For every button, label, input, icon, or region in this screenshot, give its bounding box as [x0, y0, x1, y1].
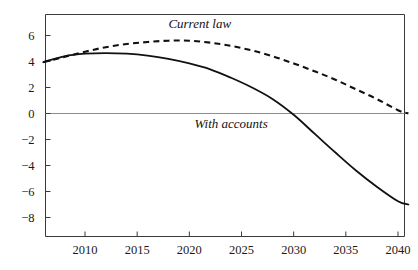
chart-container: 6420−2−4−6−8 201020152020202520302035204…	[0, 0, 418, 270]
x-tick-label: 2040	[386, 243, 411, 257]
x-tick-label: 2025	[229, 243, 254, 257]
series-label-current-law: Current law	[168, 16, 231, 31]
y-tick-label: −8	[21, 211, 34, 225]
line-chart: 6420−2−4−6−8 201020152020202520302035204…	[0, 0, 418, 270]
x-axis-ticks: 2010201520202025203020352040	[73, 232, 411, 257]
y-axis-ticks: 6420−2−4−6−8	[21, 29, 50, 225]
series-label-with-accounts: With accounts	[194, 116, 267, 131]
y-tick-label: 6	[28, 29, 34, 43]
y-tick-label: −6	[21, 185, 34, 199]
y-tick-label: 2	[28, 81, 34, 95]
y-tick-label: 4	[28, 55, 35, 69]
x-tick-label: 2035	[333, 243, 358, 257]
series-line-current-law	[43, 40, 408, 113]
y-tick-label: −2	[21, 133, 34, 147]
y-tick-label: 0	[28, 107, 34, 121]
x-tick-label: 2020	[177, 243, 202, 257]
x-tick-label: 2010	[73, 243, 98, 257]
x-tick-label: 2015	[125, 243, 150, 257]
y-tick-label: −4	[21, 159, 35, 173]
x-tick-label: 2030	[281, 243, 306, 257]
